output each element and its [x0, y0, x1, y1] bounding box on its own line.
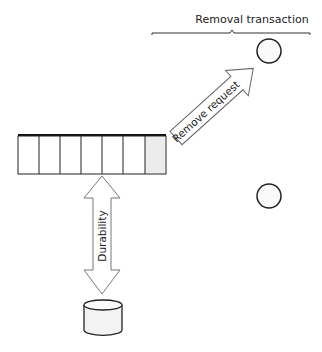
remove-request-label: Remove request: [170, 78, 242, 144]
diagram-canvas: Removal transaction Remove request Durab…: [0, 0, 322, 352]
server-top-node: [257, 39, 281, 63]
database-icon: [84, 300, 122, 335]
queue: [18, 134, 166, 174]
durability-arrow: Durability: [84, 176, 120, 294]
remove-request-arrow: Remove request: [162, 56, 264, 153]
durability-label: Durability: [96, 210, 108, 261]
removal-transaction-bracket: Removal transaction: [152, 13, 310, 35]
server-bottom-node: [257, 184, 281, 208]
bracket-label: Removal transaction: [195, 13, 308, 26]
